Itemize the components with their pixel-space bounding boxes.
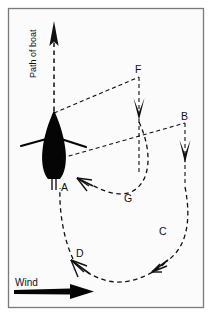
sailing-diagram: Path of boat A B C D F G Wind: [0, 0, 213, 320]
wind-label: Wind: [15, 277, 38, 288]
label-a: A: [61, 181, 68, 193]
label-c: C: [159, 225, 167, 237]
label-g: G: [124, 192, 132, 204]
diagram-figure: Path of boat A B C D F G Wind: [0, 0, 213, 320]
label-d: D: [76, 247, 84, 259]
label-b: B: [181, 110, 188, 122]
label-f: F: [135, 63, 141, 75]
path-of-boat-label: Path of boat: [28, 29, 38, 78]
